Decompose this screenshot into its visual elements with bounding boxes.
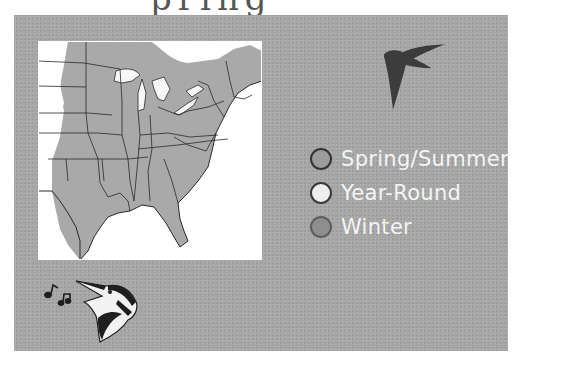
music-notes-icon — [45, 285, 72, 306]
range-map-panel: Spring/Summer Year-Round Winter — [14, 15, 508, 351]
year-round-swatch-icon — [310, 182, 332, 204]
legend-label: Winter — [341, 215, 412, 239]
singing-bird-head-icon — [76, 281, 137, 342]
winter-swatch-icon — [310, 216, 332, 238]
legend: Spring/Summer Year-Round Winter — [310, 142, 509, 244]
spring-summer-swatch-icon — [310, 148, 332, 170]
legend-item-winter: Winter — [310, 210, 509, 244]
range-area — [52, 41, 262, 260]
us-range-map-graphic — [38, 41, 262, 260]
bird-song-icon[interactable] — [36, 272, 156, 347]
legend-label: Spring/Summer — [341, 147, 509, 171]
range-map — [38, 41, 262, 260]
chimney-swift-icon — [369, 41, 449, 121]
legend-label: Year-Round — [341, 181, 461, 205]
legend-item-year-round: Year-Round — [310, 176, 509, 210]
legend-item-spring-summer: Spring/Summer — [310, 142, 509, 176]
